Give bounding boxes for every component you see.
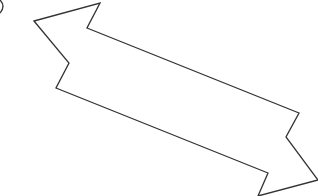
double-headed-arrow-icon xyxy=(34,3,318,196)
edge-arc-fragment xyxy=(0,0,3,13)
double-arrow-diagram xyxy=(0,0,318,196)
